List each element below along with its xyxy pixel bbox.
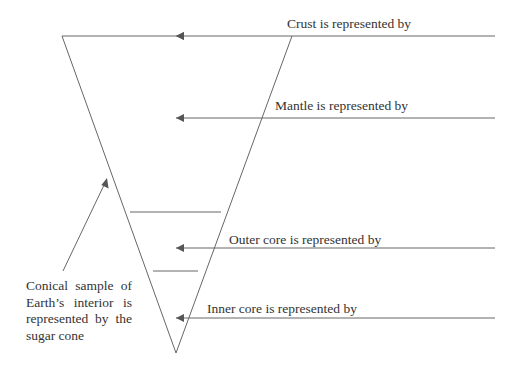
diagram-canvas: Crust is represented by Mantle is repres… (0, 0, 520, 373)
mantle-arrowhead-icon (176, 114, 184, 122)
inner-core-label: Inner core is represented by (207, 302, 357, 316)
caption-arrowhead-icon (101, 178, 108, 189)
caption-line-1: Conical sample of (26, 278, 132, 295)
caption-line-3: represented by the (26, 311, 132, 328)
mantle-label: Mantle is represented by (275, 99, 408, 113)
crust-label: Crust is represented by (287, 17, 411, 31)
cone-caption: Conical sample of Earth’s interior is re… (26, 278, 132, 344)
inner-core-arrowhead-icon (176, 314, 184, 322)
crust-arrowhead-icon (176, 32, 184, 40)
caption-line-2: Earth’s interior is (26, 295, 132, 312)
outer-core-arrowhead-icon (176, 244, 184, 252)
caption-line-4: sugar cone (26, 328, 132, 345)
outer-core-label: Outer core is represented by (229, 233, 381, 247)
caption-arrow (63, 185, 104, 271)
